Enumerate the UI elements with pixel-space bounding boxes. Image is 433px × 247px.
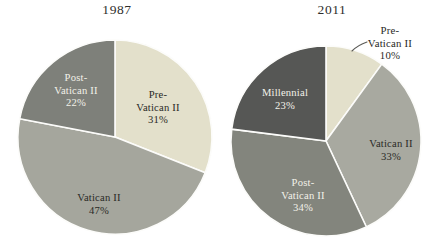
generations-pie-figure: 1987 Pre-Vatican II31%Vatican II47%Post-… <box>0 0 433 247</box>
chart-2011: 2011 Pre-Vatican II10%Vatican II33%Post-… <box>216 0 433 247</box>
callout-leader-line <box>352 42 367 51</box>
slice-label-pre-vatican-ii: Pre-Vatican II10% <box>368 24 412 61</box>
pie-2011: Pre-Vatican II10%Vatican II33%Post-Vatic… <box>216 0 433 247</box>
chart-1987: 1987 Pre-Vatican II31%Vatican II47%Post-… <box>0 0 216 247</box>
pie-1987: Pre-Vatican II31%Vatican II47%Post-Vatic… <box>0 0 216 247</box>
